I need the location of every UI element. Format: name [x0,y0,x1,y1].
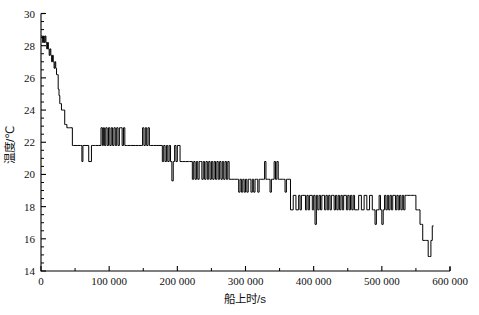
y-tick-label: 16 [24,233,36,245]
y-tick-label: 14 [24,265,36,277]
x-axis-title: 船上时/s [224,292,266,305]
y-tick-label: 26 [24,72,36,84]
y-tick-label: 18 [24,201,36,213]
x-tick-label: 400 000 [296,275,332,287]
y-tick-label: 28 [24,40,36,52]
chart-figure: 0100 000200 000300 000400 000500 000600 … [0,0,479,315]
y-tick-label: 24 [24,104,36,116]
x-tick-label: 600 000 [432,275,468,287]
x-tick-label: 100 000 [91,275,127,287]
chart-background [0,0,479,315]
temperature-vs-shiptime-chart: 0100 000200 000300 000400 000500 000600 … [0,0,479,315]
y-tick-label: 30 [24,8,36,20]
y-tick-label: 22 [24,136,35,148]
x-tick-label: 300 000 [228,275,264,287]
y-axis-title: 温度/℃ [3,126,16,164]
y-tick-label: 20 [24,168,36,180]
x-tick-label: 200 000 [159,275,195,287]
x-tick-label: 500 000 [364,275,400,287]
x-tick-label: 0 [38,275,44,287]
y-axis-tick-labels: 141618202224262830 [24,8,36,278]
